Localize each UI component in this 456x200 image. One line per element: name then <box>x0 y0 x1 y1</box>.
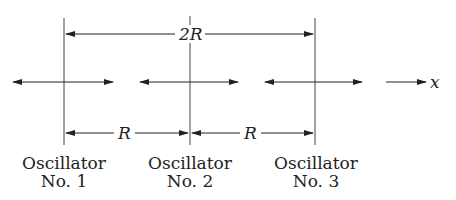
x-axis-label: x <box>428 73 442 91</box>
oscillator-3-name: Oscillator <box>256 154 376 172</box>
oscillator-2-name: Oscillator <box>130 154 250 172</box>
oscillator-1-name: Oscillator <box>4 154 124 172</box>
spacing-label-2: R <box>242 124 259 142</box>
oscillator-diagram: 2R x R R Oscillator No. 1 Oscillator No.… <box>0 0 456 200</box>
oscillator-2-label: Oscillator No. 2 <box>130 154 250 190</box>
oscillator-3-label: Oscillator No. 3 <box>256 154 376 190</box>
oscillator-3-number: No. 3 <box>256 172 376 190</box>
total-spacing-label: 2R <box>177 25 205 43</box>
oscillator-1-label: Oscillator No. 1 <box>4 154 124 190</box>
spacing-label-1: R <box>116 124 133 142</box>
oscillator-1-number: No. 1 <box>4 172 124 190</box>
oscillator-2-number: No. 2 <box>130 172 250 190</box>
